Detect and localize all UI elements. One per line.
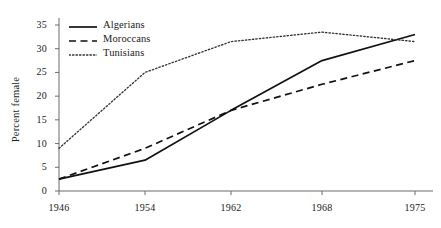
y-tick-label: 20 [25,90,47,101]
legend-label: Algerians [103,19,145,31]
legend-swatch-solid-icon [69,19,97,31]
y-tick-marks [55,25,59,191]
legend-swatch-dotted-icon [69,47,97,59]
y-axis-title: Percent female [10,62,21,158]
legend-label: Tunisians [103,47,144,59]
y-tick-label: 25 [25,66,47,77]
legend-item-algerians[interactable]: Algerians [69,18,177,32]
x-tick-label: 1962 [211,202,251,213]
x-tick-label: 1946 [39,202,79,213]
y-tick-label: 10 [25,138,47,149]
series-line-moroccans [59,61,415,180]
legend-swatch-dashed-icon [69,33,97,45]
line-chart-figure: Percent female 05101520253035 1946195419… [0,0,441,228]
x-tick-label: 1975 [395,202,435,213]
x-tick-marks [59,191,415,195]
plot-area [0,0,441,228]
y-tick-label: 0 [25,185,47,196]
y-tick-label: 5 [25,161,47,172]
x-tick-label: 1954 [125,202,165,213]
chart-legend: AlgeriansMoroccansTunisians [69,18,177,60]
legend-item-moroccans[interactable]: Moroccans [69,32,177,46]
y-tick-label: 35 [25,19,47,30]
x-tick-label: 1968 [302,202,342,213]
legend-label: Moroccans [103,33,151,45]
y-tick-label: 30 [25,43,47,54]
legend-item-tunisians[interactable]: Tunisians [69,46,177,60]
y-tick-label: 15 [25,114,47,125]
